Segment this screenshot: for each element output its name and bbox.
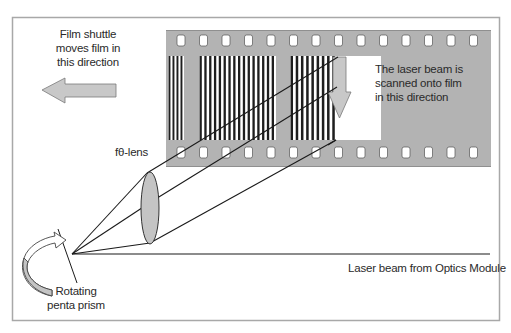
sprocket-hole [335, 35, 343, 46]
sprocket-hole [380, 35, 388, 46]
sprocket-hole [357, 147, 365, 158]
sprocket-hole [222, 35, 230, 46]
sprocket-hole [425, 147, 433, 158]
sprocket-hole [335, 147, 343, 158]
sprocket-hole [290, 35, 298, 46]
sprocket-hole [200, 35, 208, 46]
sprocket-hole [177, 35, 185, 46]
sprocket-hole [290, 147, 298, 158]
laser-beam-source-label: Laser beam from Optics Module [348, 261, 506, 275]
sprocket-hole [267, 147, 275, 158]
sprocket-hole [402, 35, 410, 46]
sprocket-hole [425, 35, 433, 46]
sprocket-hole [267, 35, 275, 46]
sprocket-hole [245, 35, 253, 46]
sprocket-hole [470, 35, 478, 46]
sprocket-hole [222, 147, 230, 158]
sprocket-hole [380, 147, 388, 158]
sprocket-hole [402, 147, 410, 158]
f-theta-lens-label: fθ-lens [115, 145, 148, 159]
f-theta-lens [141, 172, 159, 244]
sprocket-hole [470, 147, 478, 158]
sprocket-hole [447, 35, 455, 46]
sprocket-hole [245, 147, 253, 158]
penta-prism-label: Rotating penta prism [40, 284, 112, 312]
sprocket-hole [312, 35, 320, 46]
sprocket-hole [357, 35, 365, 46]
laser-scan-label: The laser beam is scanned onto film in t… [375, 62, 495, 104]
sprocket-hole [200, 147, 208, 158]
film-shuttle-label: Film shuttle moves film in this directio… [42, 27, 134, 69]
sprocket-hole [447, 147, 455, 158]
